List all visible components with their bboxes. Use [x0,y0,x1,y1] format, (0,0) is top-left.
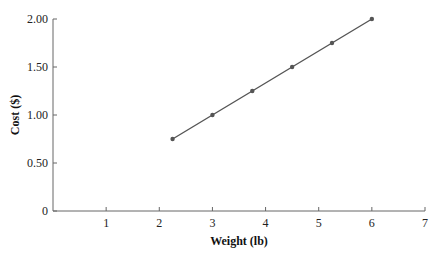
y-axis-label: Cost ($) [8,95,22,135]
x-tick-label: 7 [422,216,428,230]
data-point [330,41,334,45]
x-tick-label: 5 [316,216,322,230]
data-series [170,17,374,141]
x-tick-label: 2 [156,216,162,230]
x-axis-label: Weight (lb) [210,234,268,248]
data-point [370,17,374,21]
axes: 123456700.501.001.502.00 [27,12,428,230]
x-tick-label: 1 [103,216,109,230]
x-tick-label: 4 [263,216,269,230]
x-tick-label: 3 [209,216,215,230]
y-tick-label: 2.00 [27,12,48,26]
y-tick-label: 1.50 [27,60,48,74]
data-point [290,65,294,69]
y-tick-label: 0 [42,204,48,218]
data-point [170,137,174,141]
series-line [173,19,372,139]
data-point [210,113,214,117]
y-tick-label: 1.00 [27,108,48,122]
y-tick-label: 0.50 [27,156,48,170]
x-tick-label: 6 [369,216,375,230]
data-point [250,89,254,93]
line-chart: 123456700.501.001.502.00 Weight (lb) Cos… [0,0,441,253]
